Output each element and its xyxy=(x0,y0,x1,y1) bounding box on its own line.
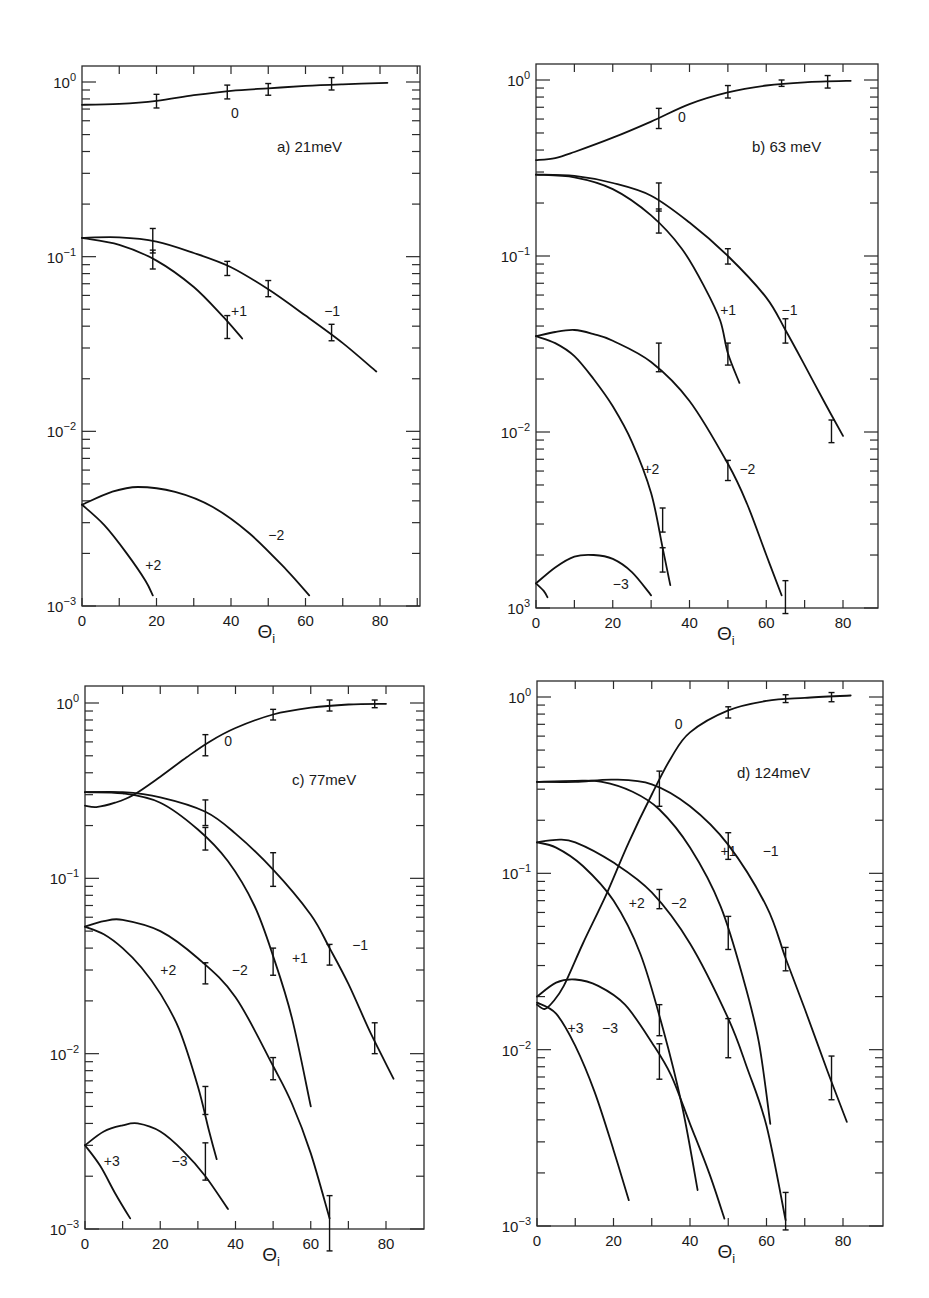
series-+1: +1 xyxy=(85,792,311,1106)
y-tick-label: 100 xyxy=(507,69,530,89)
series-0: 0 xyxy=(82,78,387,122)
x-tick-label: 80 xyxy=(372,612,389,629)
error-bar xyxy=(265,84,271,96)
x-tick-label: 60 xyxy=(758,614,775,631)
y-tick-label: 103 xyxy=(507,597,530,617)
x-axis-label: Θi xyxy=(717,1241,735,1266)
fit-curve xyxy=(85,792,394,1079)
y-tick-label: 10−2 xyxy=(47,420,76,440)
y-tick-label: 10−2 xyxy=(502,1039,531,1059)
y-tick-label: 10−1 xyxy=(50,867,79,887)
curve-label: +3 xyxy=(104,1153,120,1169)
x-tick-label: 60 xyxy=(297,612,314,629)
x-tick-label: 0 xyxy=(78,612,86,629)
curve-label: −3 xyxy=(172,1153,188,1169)
y-tick-label: 10−1 xyxy=(47,246,76,266)
plot-frame xyxy=(536,64,878,608)
curve-label: +1 xyxy=(292,950,308,966)
x-tick-label: 40 xyxy=(223,612,240,629)
panel-title: a) 21meV xyxy=(277,138,342,155)
series--1: −1 xyxy=(85,792,394,1079)
fit-curve xyxy=(85,927,217,1159)
curve-label: +2 xyxy=(629,895,645,911)
figure: 02040608010010−110−210−3Θia) 21meV0−1+1−… xyxy=(0,0,929,1298)
curve-label: 0 xyxy=(678,109,686,125)
plot-frame xyxy=(537,681,883,1226)
y-tick-label: 100 xyxy=(53,71,76,91)
y-tick-label: 100 xyxy=(508,686,531,706)
y-tick-label: 10−2 xyxy=(50,1043,79,1063)
curve-label: 0 xyxy=(675,716,683,732)
error-bar xyxy=(224,261,230,275)
curve-label: −1 xyxy=(352,937,368,953)
series--1: −1 xyxy=(82,228,376,371)
curve-label: −2 xyxy=(671,895,687,911)
curve-label: −2 xyxy=(232,962,248,978)
error-bar xyxy=(270,853,276,887)
x-tick-label: 0 xyxy=(532,614,540,631)
y-tick-label: 10−3 xyxy=(47,595,76,615)
curve-label: +2 xyxy=(145,557,161,573)
x-axis-label: Θi xyxy=(262,1244,280,1269)
plot-frame xyxy=(85,686,424,1229)
error-bar xyxy=(327,1196,333,1251)
x-tick-label: 60 xyxy=(758,1232,775,1249)
fit-curve xyxy=(85,792,311,1106)
curve-label: −1 xyxy=(324,303,340,319)
curve-label: −3 xyxy=(613,576,629,592)
panel-d: 02040608010010−110−210−3Θid) 124meV0−1+1… xyxy=(502,681,883,1266)
error-bar xyxy=(782,319,788,343)
series--2: −2 xyxy=(82,487,309,595)
curve-label: +2 xyxy=(643,461,659,477)
x-tick-label: 60 xyxy=(302,1235,319,1252)
y-tick-label: 10−2 xyxy=(501,421,530,441)
curve-label: 0 xyxy=(224,733,232,749)
curve-label: +1 xyxy=(231,303,247,319)
x-tick-label: 20 xyxy=(605,1232,622,1249)
x-axis-label: Θi xyxy=(717,623,735,648)
x-tick-label: 40 xyxy=(227,1235,244,1252)
x-tick-label: 20 xyxy=(148,612,165,629)
curve-label: −1 xyxy=(763,843,779,859)
series-+1: +1 xyxy=(82,238,247,339)
panel-title: d) 124meV xyxy=(737,764,810,781)
error-bar xyxy=(656,183,662,211)
fit-curve xyxy=(537,780,847,1122)
fit-curve xyxy=(536,555,651,596)
curve-label: −3 xyxy=(602,1020,618,1036)
series-0: 0 xyxy=(85,700,386,807)
chart-canvas: 02040608010010−110−210−3Θia) 21meV0−1+1−… xyxy=(0,0,929,1298)
panel-a: 02040608010010−110−210−3Θia) 21meV0−1+1−… xyxy=(47,66,420,646)
curve-label: +1 xyxy=(721,843,737,859)
error-bar xyxy=(656,1044,662,1079)
error-bar xyxy=(660,508,666,532)
series--3: −3 xyxy=(536,555,651,596)
fit-curve xyxy=(537,781,770,1124)
x-tick-label: 20 xyxy=(604,614,621,631)
error-bar xyxy=(725,249,731,264)
series-+1: +1 xyxy=(536,175,739,383)
error-bar xyxy=(327,944,333,965)
series-0: 0 xyxy=(537,693,851,1009)
y-tick-label: 10−1 xyxy=(501,245,530,265)
fit-curve xyxy=(82,505,153,596)
curve-label: +2 xyxy=(160,962,176,978)
series--2: −2 xyxy=(85,919,333,1251)
series-+2: +2 xyxy=(82,505,162,596)
fit-curve xyxy=(536,583,548,597)
panel-title: c) 77meV xyxy=(292,771,356,788)
fit-curve xyxy=(82,238,242,339)
x-tick-label: 40 xyxy=(682,1232,699,1249)
series-+3: +3 xyxy=(85,1145,130,1218)
panel-title: b) 63 meV xyxy=(752,138,821,155)
curve-label: −2 xyxy=(268,527,284,543)
plot-frame xyxy=(82,66,420,606)
x-tick-label: 80 xyxy=(835,1232,852,1249)
x-tick-label: 80 xyxy=(378,1235,395,1252)
error-bar xyxy=(828,420,834,443)
x-tick-label: 20 xyxy=(152,1235,169,1252)
y-tick-label: 10−3 xyxy=(502,1215,531,1235)
series-+2: +2 xyxy=(536,336,670,585)
x-tick-label: 80 xyxy=(835,614,852,631)
error-bar xyxy=(725,460,731,480)
